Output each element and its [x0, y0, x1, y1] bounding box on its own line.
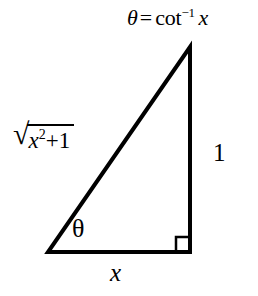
radicand-group: x2+1 [27, 124, 74, 152]
cotangent-function-name: cot [155, 5, 181, 30]
radicand-exponent: 2 [39, 127, 46, 142]
hypotenuse-length-label: √x2+1 [13, 121, 74, 149]
equation-argument-x: x [199, 5, 209, 30]
adjacent-side-label: x [110, 260, 121, 285]
opposite-side-label: 1 [213, 140, 226, 165]
theta-symbol: θ [127, 5, 138, 30]
right-angle-marker-icon [176, 237, 190, 252]
trig-triangle-figure: θ=cot−1x √x2+1 1 θ x [0, 0, 258, 296]
apex-equation-label: θ=cot−1x [127, 6, 208, 29]
radicand-base-x: x [28, 128, 38, 153]
plus-operator: + [46, 128, 59, 153]
equals-symbol: = [140, 5, 152, 30]
inverse-exponent: −1 [182, 5, 195, 20]
radicand-addend: 1 [59, 128, 71, 153]
base-angle-theta-label: θ [72, 216, 84, 242]
